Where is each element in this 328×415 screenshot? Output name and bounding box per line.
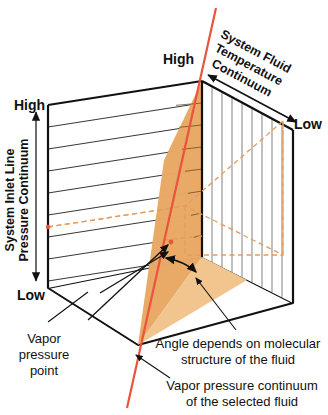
vertical-axis-label-line2: Pressure Continuum <box>17 139 31 262</box>
guide-origin-dot <box>46 225 50 229</box>
vapor-continuum-note-annotation: Vapor pressure continuum of the selected… <box>166 378 318 409</box>
diagram-canvas: High Low System Inlet Line Pressure Cont… <box>0 0 328 415</box>
vapor-point-line3: point <box>30 363 59 378</box>
vertical-axis-low-label: Low <box>17 287 45 303</box>
depth-axis-low-label: Low <box>294 116 322 132</box>
depth-axis-high-label: High <box>163 51 194 67</box>
angle-note-line1: Angle depends on molecular <box>156 336 321 351</box>
vapor-continuum-line1: Vapor pressure continuum <box>166 378 318 393</box>
vertical-axis-label: System Inlet Line Pressure Continuum <box>3 139 31 262</box>
vertical-axis-high-label: High <box>14 97 45 113</box>
vapor-pressure-point-dot <box>169 240 174 245</box>
vapor-point-line1: Vapor <box>27 331 61 346</box>
vapor-pressure-point-annotation: Vapor pressure point <box>19 331 70 378</box>
vapor-continuum-line2: of the selected fluid <box>186 394 298 409</box>
figure-root: High Low System Inlet Line Pressure Cont… <box>0 0 328 415</box>
angle-note-annotation: Angle depends on molecular structure of … <box>156 336 321 367</box>
angle-note-line2: structure of the fluid <box>181 352 295 367</box>
vapor-point-line2: pressure <box>19 347 70 362</box>
vertical-axis-label-line1: System Inlet Line <box>3 149 17 252</box>
